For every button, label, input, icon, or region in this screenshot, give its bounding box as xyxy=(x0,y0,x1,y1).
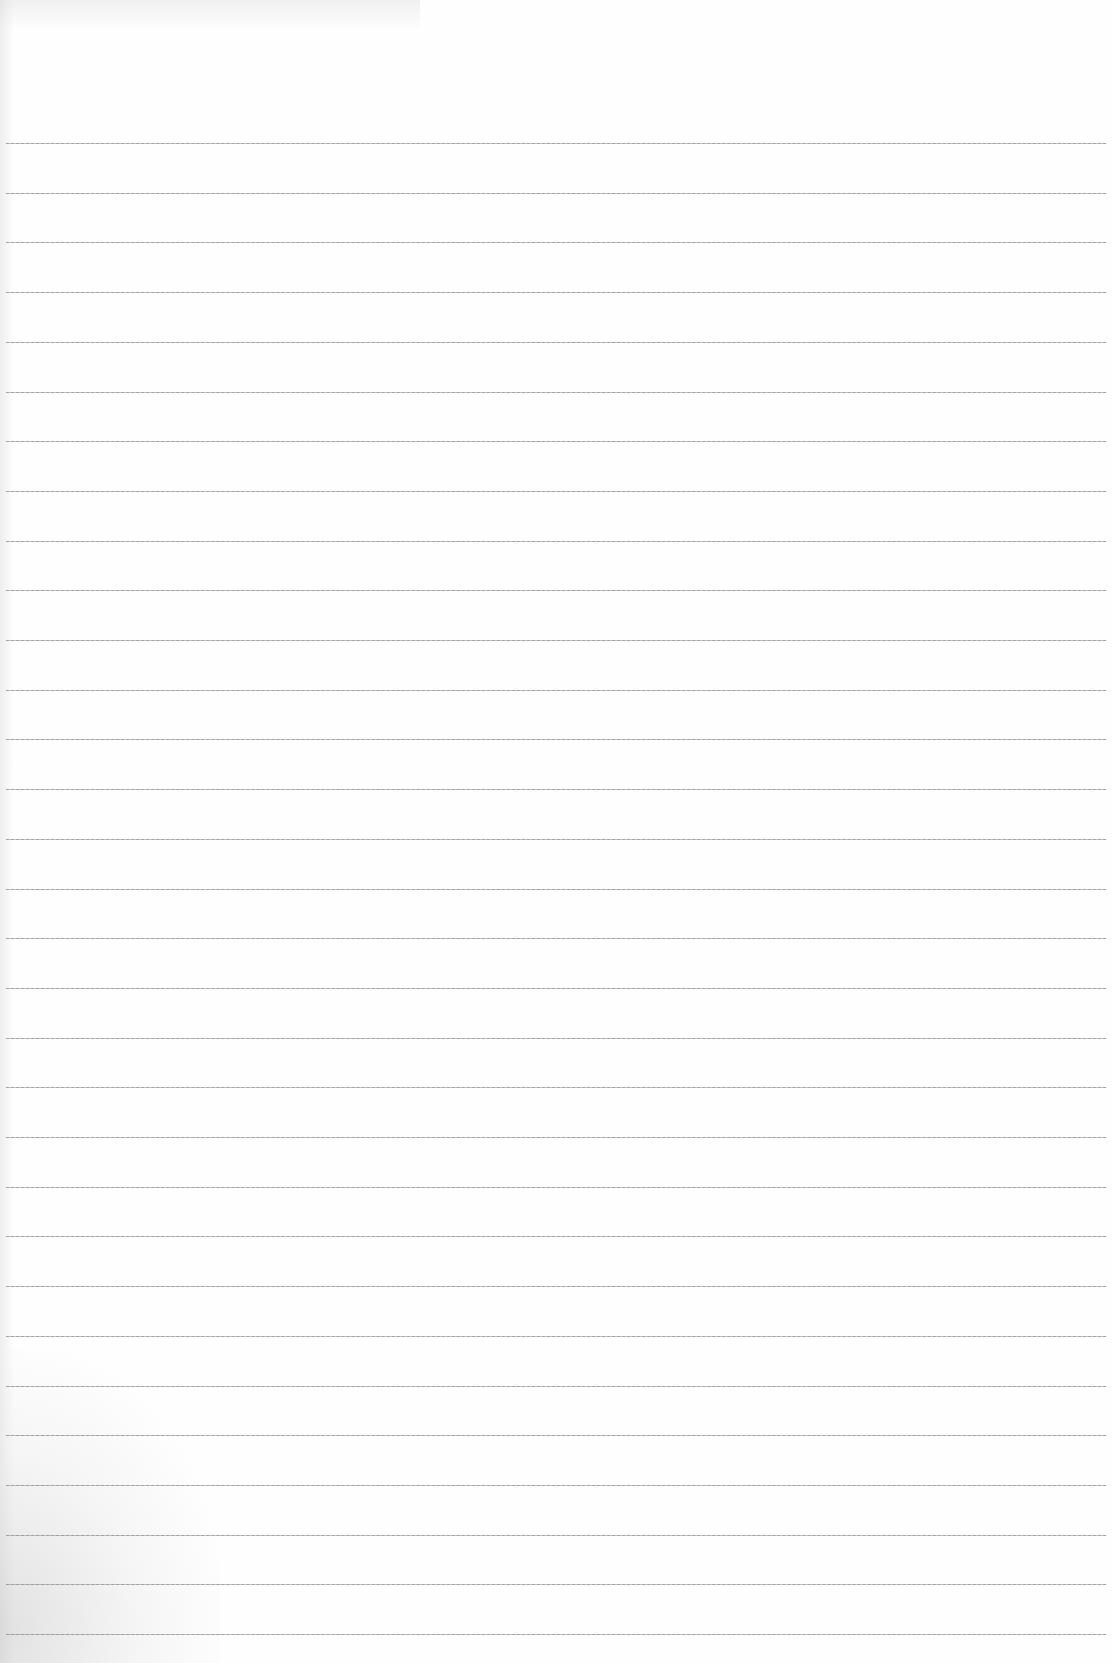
ruled-line xyxy=(6,1038,1106,1039)
scan-smudge-bottom-left xyxy=(0,1350,220,1663)
ruled-line xyxy=(6,1435,1106,1436)
ruled-line xyxy=(6,1535,1106,1536)
ruled-line xyxy=(6,988,1106,989)
ruled-line xyxy=(6,1336,1106,1337)
ruled-line xyxy=(6,889,1106,890)
ruled-line xyxy=(6,342,1106,343)
ruled-line xyxy=(6,739,1106,740)
ruled-line xyxy=(6,1087,1106,1088)
ruled-line xyxy=(6,789,1106,790)
ruled-line xyxy=(6,292,1106,293)
ruled-line xyxy=(6,590,1106,591)
ruled-line xyxy=(6,839,1106,840)
ruled-line xyxy=(6,1286,1106,1287)
ruled-line xyxy=(6,392,1106,393)
ruled-line xyxy=(6,1386,1106,1387)
ruled-line xyxy=(6,1485,1106,1486)
scan-shadow-left-edge xyxy=(0,0,14,1663)
ruled-line xyxy=(6,690,1106,691)
ruled-line xyxy=(6,491,1106,492)
scan-smudge-top xyxy=(0,0,420,30)
ruled-line xyxy=(6,1634,1106,1635)
ruled-line xyxy=(6,640,1106,641)
ruled-paper-page xyxy=(0,0,1112,1663)
ruled-line xyxy=(6,938,1106,939)
ruled-line xyxy=(6,1187,1106,1188)
ruled-line xyxy=(6,1584,1106,1585)
ruled-line xyxy=(6,242,1106,243)
ruled-line xyxy=(6,1137,1106,1138)
ruled-line xyxy=(6,441,1106,442)
ruled-line xyxy=(6,541,1106,542)
ruled-line xyxy=(6,1236,1106,1237)
ruled-line xyxy=(6,143,1106,144)
ruled-line xyxy=(6,193,1106,194)
